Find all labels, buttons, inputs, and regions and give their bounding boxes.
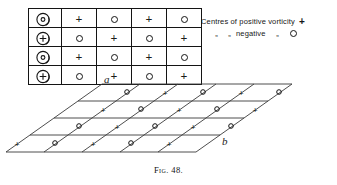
symbol-cell [167, 9, 202, 28]
table-row: + + [29, 9, 202, 28]
plus-icon: + [146, 51, 153, 63]
panel-b-label: b [222, 136, 228, 147]
lattice-svg: + + + + + + + + + [6, 82, 306, 160]
vortex-cell [29, 47, 62, 66]
svg-text:+: + [100, 105, 105, 115]
legend-negative-text: negative [236, 28, 266, 40]
svg-text:+: + [190, 122, 195, 132]
symbol-cell: + [167, 28, 202, 47]
plus-icon: + [111, 70, 118, 82]
svg-text:+: + [14, 139, 19, 149]
symbol-cell: + [132, 47, 167, 66]
legend-entry-positive: Centres of positive vorticity + [200, 16, 337, 28]
svg-text:+: + [162, 88, 167, 98]
symbol-cell: + [62, 47, 97, 66]
svg-text:+: + [252, 105, 257, 115]
plus-icon: + [181, 32, 188, 44]
circle-icon [290, 30, 297, 37]
table-row: + + [29, 28, 202, 47]
panel-b-skewed-lattice: + + + + + + + + + [6, 82, 306, 160]
symbol-cell [167, 47, 202, 66]
panel-a-vorticity-table: + + [28, 8, 196, 72]
plus-icon: + [111, 32, 118, 44]
svg-text:+: + [166, 139, 171, 149]
vortex-cell [29, 9, 62, 28]
symbol-cell [97, 47, 132, 66]
legend: Centres of positive vorticity + „ „ nega… [200, 16, 337, 39]
circle-icon [76, 73, 83, 80]
circle-icon [181, 16, 188, 23]
plus-icon: + [76, 51, 83, 63]
circle-icon [111, 54, 118, 61]
table-row: + + [29, 47, 202, 66]
vortex-ccw-icon [32, 50, 58, 65]
symbol-cell [132, 28, 167, 47]
circle-icon [76, 35, 83, 42]
plus-icon: + [181, 70, 188, 82]
figure-caption: Fig. 48. [0, 165, 337, 175]
legend-positive-text: Centres of positive vorticity [201, 16, 295, 28]
svg-text:+: + [238, 88, 243, 98]
symbol-cell: + [132, 9, 167, 28]
vortex-cw-icon [32, 31, 58, 46]
vorticity-grid-table: + + [28, 8, 202, 85]
svg-text:+: + [90, 139, 95, 149]
symbol-cell [97, 9, 132, 28]
vortex-cell [29, 28, 62, 47]
svg-text:+: + [176, 105, 181, 115]
circle-icon [146, 35, 153, 42]
legend-entry-negative: „ „ negative „ [200, 28, 337, 40]
symbol-cell [62, 28, 97, 47]
ditto-mark: „ [223, 28, 236, 40]
symbol-cell: + [97, 28, 132, 47]
vortex-ccw-icon [32, 12, 58, 27]
circle-icon [181, 54, 188, 61]
figure-48: + + [0, 0, 337, 185]
ditto-mark: „ [210, 28, 223, 40]
circle-icon [146, 73, 153, 80]
ditto-mark: „ [266, 28, 290, 40]
symbol-cell: + [62, 9, 97, 28]
plus-icon: + [76, 13, 83, 25]
plus-icon: + [146, 13, 153, 25]
circle-icon [111, 16, 118, 23]
svg-text:+: + [114, 122, 119, 132]
plus-icon: + [299, 17, 305, 27]
